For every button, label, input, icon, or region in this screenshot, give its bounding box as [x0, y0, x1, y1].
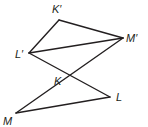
segment-L_prime-M_prime — [29, 38, 123, 53]
segment-K_prime-L_prime — [29, 20, 59, 53]
segments — [16, 20, 123, 113]
label-l: L — [116, 91, 122, 103]
segment-M-L — [16, 97, 110, 113]
label-m-prime: M′ — [126, 32, 138, 44]
triangle-diagram: K′ M′ L′ K L M — [0, 0, 148, 127]
label-k: K — [54, 75, 62, 87]
label-m: M — [3, 115, 13, 127]
segment-K_prime-M_prime — [59, 20, 123, 38]
label-k-prime: K′ — [52, 3, 62, 15]
label-l-prime: L′ — [15, 48, 24, 60]
